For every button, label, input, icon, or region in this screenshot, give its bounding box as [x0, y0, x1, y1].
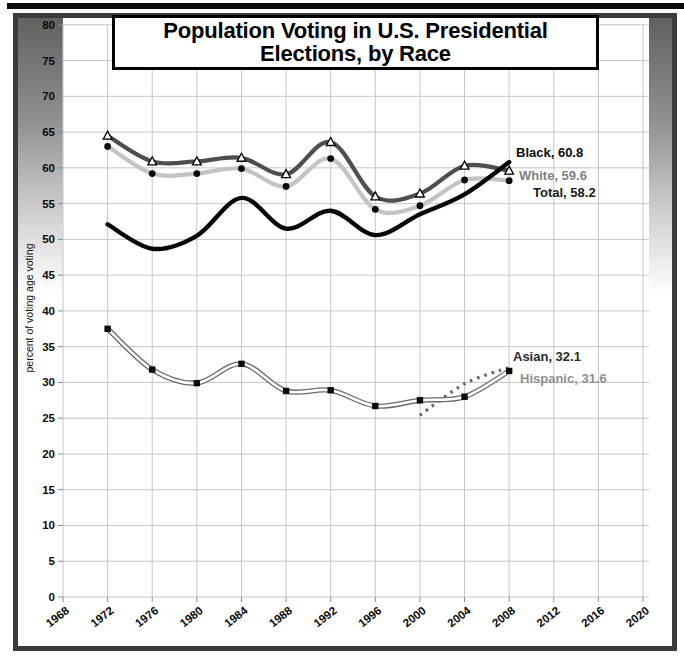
- x-tick-label-2020: 2020: [624, 604, 652, 629]
- marker-circle: [461, 177, 468, 184]
- y-tick-label-50: 50: [42, 233, 55, 245]
- x-tick-label-2004: 2004: [445, 604, 473, 630]
- y-tick-label-45: 45: [42, 269, 55, 281]
- x-tick-label-1980: 1980: [178, 604, 206, 629]
- y-tick-label-80: 80: [42, 19, 55, 31]
- plot-area: [63, 18, 649, 597]
- y-tick-label-25: 25: [42, 412, 55, 424]
- series-asian-label: Asian, 32.1: [513, 349, 581, 364]
- x-tick-label-1984: 1984: [222, 604, 250, 630]
- y-tick-label-20: 20: [42, 448, 55, 460]
- y-tick-label-0: 0: [49, 591, 55, 603]
- marker-square: [104, 326, 110, 332]
- marker-circle: [104, 143, 111, 150]
- series-hispanic-label: Hispanic, 31.6: [520, 371, 607, 386]
- page: 0510152025303540455055606570758019681972…: [0, 0, 684, 665]
- marker-square: [283, 388, 289, 394]
- x-tick-label-1976: 1976: [133, 604, 161, 629]
- voting-line-chart: 0510152025303540455055606570758019681972…: [0, 0, 684, 665]
- marker-square: [238, 361, 244, 367]
- y-tick-label-70: 70: [42, 90, 55, 102]
- x-tick-label-2012: 2012: [534, 604, 562, 629]
- x-tick-label-1992: 1992: [311, 604, 339, 629]
- y-tick-label-30: 30: [42, 376, 55, 388]
- x-axis-labels: 1968197219761980198419881992199620002004…: [44, 604, 652, 630]
- marker-circle: [193, 170, 200, 177]
- series-total-label: Total, 58.2: [533, 185, 596, 200]
- y-tick-label-60: 60: [42, 162, 55, 174]
- x-tick-label-2016: 2016: [579, 604, 607, 629]
- y-tick-label-40: 40: [42, 305, 55, 317]
- x-tick-label-1972: 1972: [88, 604, 116, 629]
- marker-square: [461, 394, 467, 400]
- y-tick-label-15: 15: [42, 484, 55, 496]
- marker-circle: [372, 206, 379, 213]
- series-black-label: Black, 60.8: [516, 145, 583, 160]
- chart-title-line1: Population Voting in U.S. Presidential: [115, 19, 596, 42]
- marker-square: [417, 397, 423, 403]
- marker-circle: [238, 165, 245, 172]
- marker-circle: [149, 170, 156, 177]
- marker-circle: [283, 183, 290, 190]
- marker-circle: [506, 177, 513, 184]
- marker-square: [194, 380, 200, 386]
- y-tick-label-65: 65: [42, 126, 55, 138]
- y-axis-labels: 05101520253035404550556065707580: [42, 19, 55, 603]
- y-tick-label-75: 75: [42, 55, 55, 67]
- marker-square: [149, 366, 155, 372]
- y-tick-label-35: 35: [42, 341, 55, 353]
- marker-circle: [327, 155, 334, 162]
- x-tick-label-2008: 2008: [490, 604, 518, 630]
- y-tick-label-10: 10: [42, 519, 55, 531]
- chart-title-line2: Elections, by Race: [115, 42, 596, 65]
- marker-square: [506, 368, 512, 374]
- x-tick-label-2000: 2000: [401, 604, 429, 629]
- x-tick-label-1968: 1968: [44, 604, 72, 630]
- marker-square: [372, 403, 378, 409]
- x-tick-label-1996: 1996: [356, 604, 384, 629]
- y-tick-label-5: 5: [49, 555, 56, 567]
- marker-circle: [417, 202, 424, 209]
- marker-square: [327, 387, 333, 393]
- y-tick-label-55: 55: [42, 198, 55, 210]
- chart-title-box: Population Voting in U.S. Presidential E…: [112, 15, 599, 70]
- y-axis-title: percent of voting age voting: [23, 243, 35, 372]
- series-white-label: White, 59.6: [519, 168, 587, 183]
- x-tick-label-1988: 1988: [267, 604, 295, 630]
